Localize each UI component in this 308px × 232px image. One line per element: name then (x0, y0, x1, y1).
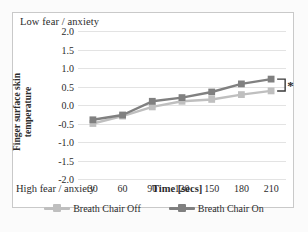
plot-area: 2.01.51.00.50.0-0.5-1.0-1.5-2.0 30609012… (78, 31, 286, 179)
chart-legend: Breath Chair OffBreath Chair On (0, 199, 308, 217)
y-tick-label: 1.0 (40, 63, 74, 74)
significance-asterisk: * (287, 79, 294, 92)
x-tick-label: 60 (118, 183, 128, 194)
x-tick-label: 120 (175, 183, 190, 194)
bracket-path (277, 79, 285, 91)
y-tick-label: 1.5 (40, 44, 74, 55)
y-tick-label: -1.0 (40, 137, 74, 148)
y-tick-label: 0.0 (40, 100, 74, 111)
legend-item[interactable]: Breath Chair On (169, 203, 264, 214)
significance-bracket (78, 31, 308, 179)
legend-marker-icon (178, 204, 186, 212)
legend-marker-icon (53, 204, 61, 212)
y-tick-label: -1.5 (40, 155, 74, 166)
y-tick-label: -2.0 (40, 174, 74, 185)
annotation-high-fear: High fear / anxiety (16, 183, 95, 194)
x-tick-label: 90 (147, 183, 157, 194)
x-tick-label: 30 (88, 183, 98, 194)
legend-item[interactable]: Breath Chair Off (44, 203, 141, 214)
chart-figure: Low fear / anxiety High fear / anxiety F… (0, 0, 308, 232)
x-tick-label: 150 (204, 183, 219, 194)
x-tick-label: 210 (264, 183, 279, 194)
y-tick-label: 2.0 (40, 26, 74, 37)
y-tick-label: -0.5 (40, 118, 74, 129)
legend-line-swatch (169, 207, 195, 210)
gridline (78, 179, 286, 180)
legend-label: Breath Chair Off (73, 203, 141, 214)
y-tick-label: 0.5 (40, 81, 74, 92)
legend-line-swatch (44, 207, 70, 210)
y-axis-label-text: Finger surface skin temperature (12, 46, 34, 178)
y-axis-label: Finger surface skin temperature (14, 44, 32, 176)
x-tick-label: 180 (234, 183, 249, 194)
legend-label: Breath Chair On (198, 203, 264, 214)
